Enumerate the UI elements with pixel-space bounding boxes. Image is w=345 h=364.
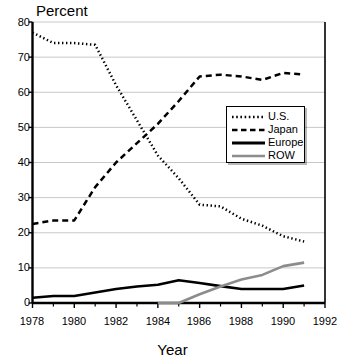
axis-ticks bbox=[29, 22, 326, 308]
dotted-line-swatch bbox=[232, 115, 265, 119]
legend-label-europe: Europe bbox=[268, 136, 303, 149]
legend-entry-row: ROW bbox=[230, 149, 304, 162]
solid-black-line-swatch bbox=[232, 141, 265, 145]
legend-entry-europe: Europe bbox=[230, 136, 304, 149]
series-line-europe bbox=[33, 280, 305, 298]
plot-area bbox=[0, 0, 345, 364]
legend-entry-japan: Japan bbox=[230, 123, 304, 136]
dashed-line-swatch bbox=[232, 128, 265, 132]
line-chart-figure: Percent 80 70 60 50 40 30 20 10 0 1978 1… bbox=[0, 0, 345, 364]
data-series-group bbox=[33, 33, 305, 303]
legend-label-row: ROW bbox=[268, 149, 295, 162]
legend-label-japan: Japan bbox=[268, 123, 298, 136]
chart-legend[interactable]: U.S. Japan Europe ROW bbox=[226, 106, 305, 163]
solid-gray-line-swatch bbox=[232, 154, 265, 158]
legend-label-us: U.S. bbox=[268, 110, 289, 123]
series-line-row bbox=[158, 263, 304, 303]
legend-entry-us: U.S. bbox=[230, 110, 304, 123]
